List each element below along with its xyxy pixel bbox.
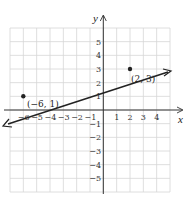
x-tick-label: 3 xyxy=(141,113,146,122)
y-tick-label: 5 xyxy=(96,38,101,47)
y-tick-label: 4 xyxy=(96,51,101,60)
y-tick-label: −2 xyxy=(89,133,101,142)
x-tick-label: 1 xyxy=(114,113,119,122)
y-tick-label: 3 xyxy=(96,65,101,74)
x-tick-label: 2 xyxy=(128,113,133,122)
point-b-marker xyxy=(128,67,132,71)
y-tick-label: −1 xyxy=(89,120,101,129)
y-tick-label: 2 xyxy=(96,79,101,88)
point-a-label: (−6, 1) xyxy=(27,99,59,109)
x-tick-label: 4 xyxy=(154,113,159,122)
x-tick-label: −4 xyxy=(45,113,57,122)
point-a-marker xyxy=(21,94,25,98)
coordinate-plane: x y −6−5−4−3−2−11234 54321−1−2−3−4−5 (−6… xyxy=(0,0,193,206)
y-tick-label: −5 xyxy=(89,174,101,183)
point-b-label: (2, 3) xyxy=(131,74,155,84)
x-tick-label: −3 xyxy=(58,113,70,122)
y-tick-label: −3 xyxy=(89,147,101,156)
x-tick-label: −2 xyxy=(71,113,83,122)
x-axis-label: x xyxy=(177,113,183,125)
y-axis-label: y xyxy=(92,12,98,24)
y-tick-label: −4 xyxy=(89,161,101,170)
